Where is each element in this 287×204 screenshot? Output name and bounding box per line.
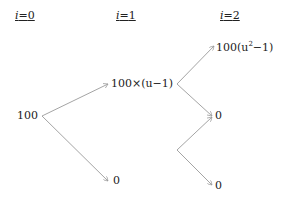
tree-edges xyxy=(0,0,287,204)
header-eq: = xyxy=(120,9,129,22)
header-i2: i=2 xyxy=(220,10,240,22)
node-step1-up: 100×(u−1) xyxy=(111,78,173,90)
edge-root-up xyxy=(42,84,108,116)
node-text: 100(u xyxy=(216,41,248,54)
edge-down-middle xyxy=(177,117,212,150)
header-i0: i=0 xyxy=(15,10,35,22)
header-i1: i=1 xyxy=(116,10,136,22)
header-eq: = xyxy=(224,9,233,22)
edge-down-downdown xyxy=(177,150,212,185)
node-step2-middle: 0 xyxy=(215,110,222,122)
node-step1-down: 0 xyxy=(113,175,120,187)
node-text: −1) xyxy=(253,41,274,54)
header-val: 2 xyxy=(233,9,240,22)
edge-up-upup xyxy=(177,46,214,84)
edge-root-down xyxy=(42,116,108,181)
header-val: 0 xyxy=(28,9,35,22)
header-val: 1 xyxy=(129,9,136,22)
node-step2-downdown: 0 xyxy=(215,180,222,192)
header-eq: = xyxy=(19,9,28,22)
edge-up-middle xyxy=(177,84,212,116)
node-root: 100 xyxy=(17,110,38,122)
node-step2-upup: 100(u2−1) xyxy=(216,38,273,54)
